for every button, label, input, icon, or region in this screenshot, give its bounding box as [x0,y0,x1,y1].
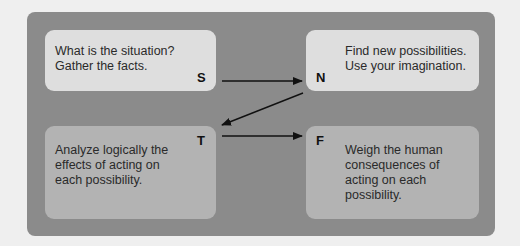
arrows [0,0,520,246]
arrow-n-to-t [222,93,303,125]
